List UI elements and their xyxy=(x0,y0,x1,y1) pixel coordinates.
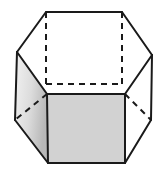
figure-container xyxy=(0,0,166,176)
prism-faces xyxy=(15,12,152,163)
edge-right-silhouette xyxy=(151,55,152,120)
front-face xyxy=(47,94,125,163)
right-face xyxy=(125,55,152,163)
hexagonal-prism-diagram xyxy=(0,0,166,176)
edge-front-left-vertical xyxy=(47,94,48,163)
edge-top-right-upper xyxy=(122,12,152,55)
